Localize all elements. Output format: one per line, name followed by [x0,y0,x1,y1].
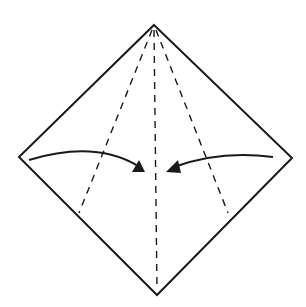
valley-fold-left [79,30,152,213]
fold-arrow-right [174,155,273,167]
arrowhead-right-icon [166,160,181,173]
arrowhead-left-icon [132,160,145,172]
valley-fold-right [156,30,228,213]
valley-fold-center [154,30,157,290]
fold-arrow-left [29,151,138,166]
origami-diagram [0,0,306,307]
